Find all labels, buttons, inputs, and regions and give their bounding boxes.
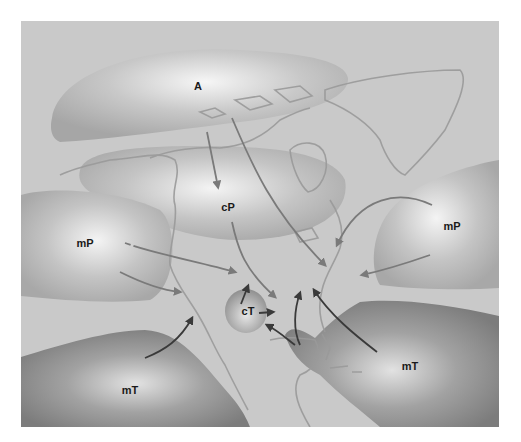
air-mass-label-mt-atlantic: mT <box>402 360 419 372</box>
air-mass-map: A cP mP mP cT mT mT <box>21 21 499 427</box>
map-graphics <box>21 21 499 427</box>
air-mass-label-mp-pacific: mP <box>76 237 93 249</box>
air-mass-label-mp-atlantic: mP <box>443 220 460 232</box>
air-mass-label-ct: cT <box>242 305 255 317</box>
maritime-tropical-atlantic-air-mass <box>285 301 499 427</box>
ct-east-arrow <box>259 312 273 313</box>
arctic-air-mass <box>51 49 348 142</box>
maritime-polar-atlantic-air-mass <box>374 160 499 289</box>
maritime-tropical-pacific-air-mass <box>21 330 250 427</box>
air-mass-label-mt-pacific: mT <box>122 384 139 396</box>
air-mass-label-arctic: A <box>194 80 202 92</box>
air-mass-label-cp: cP <box>221 201 234 213</box>
